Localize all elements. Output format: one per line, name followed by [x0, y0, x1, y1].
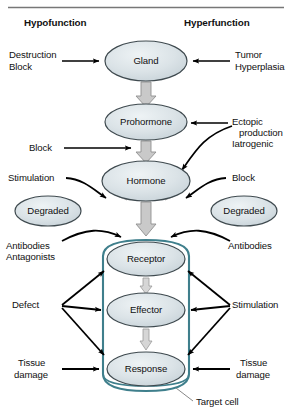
node-label-gland: Gland: [106, 55, 186, 66]
node-label-degraded-left: Degraded: [14, 205, 82, 216]
node-label-hormone: Hormone: [104, 175, 188, 186]
hormone-axis-diagram: Hypofunction Hyperfunction Gland Prohorm…: [0, 0, 292, 419]
block-arrow-hormone-to-receptor: [136, 202, 156, 236]
arrow-stimulation-to-effector: [191, 306, 230, 310]
label-destruction: Destruction: [9, 49, 56, 60]
label-defect: Defect: [12, 299, 39, 310]
label-hyperplasia: Hyperplasia: [235, 61, 285, 72]
arrow-block-to-hormone: [186, 178, 226, 198]
header-hyperfunction: Hyperfunction: [184, 17, 250, 28]
header-hypofunction: Hypofunction: [24, 17, 86, 28]
label-tumor: Tumor: [235, 49, 262, 60]
label-iatrogenic: Iatrogenic: [232, 138, 273, 149]
label-stimulation-cell: Stimulation: [232, 299, 278, 310]
label-ectopic: Ectopic: [232, 116, 263, 127]
target-cell-leader-line: [176, 388, 193, 401]
label-block-prohormone: Block: [29, 142, 52, 153]
label-tissue-right: Tissue: [240, 357, 267, 368]
label-target-cell: Target cell: [196, 396, 239, 407]
arrow-defect-to-receptor: [62, 271, 104, 305]
node-label-prohormone: Prohormone: [106, 116, 186, 127]
arrow-defect-to-effector: [62, 306, 101, 310]
block-arrow-prohormone-to-hormone: [136, 141, 156, 163]
label-tissue-left: Tissue: [18, 357, 45, 368]
arrow-antibodies-antagonists-to-cell: [62, 231, 121, 241]
node-label-degraded-right: Degraded: [210, 205, 278, 216]
label-damage-right: damage: [236, 369, 270, 380]
arrow-stimulation-to-hormone: [66, 178, 106, 198]
node-label-response: Response: [108, 363, 184, 374]
arrow-defect-to-response: [62, 308, 104, 355]
label-damage-left: damage: [14, 369, 48, 380]
label-block-gland: Block: [9, 61, 32, 72]
arrow-ectopic-to-hormone: [182, 126, 232, 170]
label-ectopic-production: production: [232, 127, 283, 138]
label-stimulation-hormone: Stimulation: [8, 172, 54, 183]
node-label-receptor: Receptor: [108, 253, 184, 264]
label-antibodies-right: Antibodies: [228, 240, 272, 251]
node-label-effector: Effector: [108, 304, 184, 315]
label-antibodies-left: Antibodies: [6, 240, 50, 251]
block-arrow-gland-to-prohormone: [136, 82, 156, 107]
label-block-hormone: Block: [232, 172, 255, 183]
arrow-antibodies-to-cell: [171, 231, 230, 241]
arrow-stimulation-to-response: [188, 308, 230, 355]
label-antagonists: Antagonists: [6, 251, 55, 262]
arrow-stimulation-to-receptor: [188, 271, 230, 305]
